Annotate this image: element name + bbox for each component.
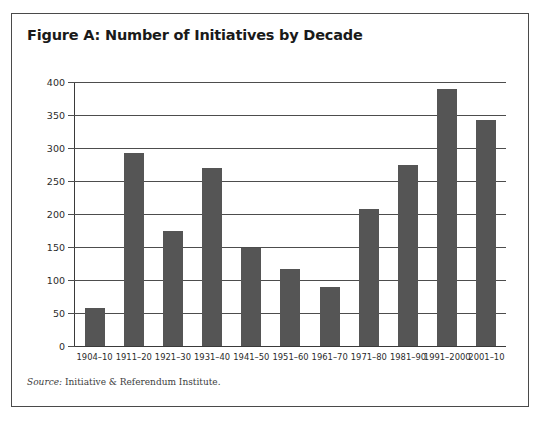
x-axis-label: 1961–70 [312,352,348,362]
y-axis-label-100: 100 [47,275,65,286]
x-axis-label: 1971–80 [351,352,387,362]
gridline-0 [74,346,506,347]
bar [241,248,261,346]
y-axis-label-0: 0 [59,341,65,352]
y-tick-50 [68,313,75,314]
y-tick-350 [68,115,75,116]
x-axis-label: 1951–60 [272,352,308,362]
bar [398,165,418,347]
figure-title: Figure A: Number of Initiatives by Decad… [27,27,363,43]
bar-slot [271,82,310,346]
y-axis-label-350: 350 [47,110,65,121]
y-axis-label-50: 50 [53,308,65,319]
y-tick-300 [68,148,75,149]
x-axis-label: 1991–2000 [424,352,471,362]
bar-slot [467,82,506,346]
x-axis-label: 1941–50 [233,352,269,362]
bar-slot [153,82,192,346]
y-axis-label-250: 250 [47,176,65,187]
bar [202,168,222,346]
bar-slot [310,82,349,346]
y-axis-label-400: 400 [47,77,65,88]
source-note: Source: Initiative & Referendum Institut… [27,377,221,387]
y-axis-label-200: 200 [47,209,65,220]
x-axis-label: 2001–10 [468,352,504,362]
y-axis-label-150: 150 [47,242,65,253]
bar [124,153,144,346]
bar [437,89,457,346]
x-axis-label: 1911–20 [116,352,152,362]
bar [280,269,300,346]
y-tick-100 [68,280,75,281]
bar [163,231,183,347]
bar-slot [75,82,114,346]
source-text: Initiative & Referendum Institute. [65,377,221,387]
bar-slot [388,82,427,346]
chart-plot-area: 050100150200250300350400 [74,82,506,346]
bar-slot [349,82,388,346]
y-tick-400 [68,82,75,83]
bar-slot [232,82,271,346]
bar-slot [428,82,467,346]
y-tick-200 [68,214,75,215]
y-axis-label-300: 300 [47,143,65,154]
x-axis-label: 1981–90 [390,352,426,362]
bar-series [75,82,506,346]
bar-slot [114,82,153,346]
y-tick-250 [68,181,75,182]
y-tick-150 [68,247,75,248]
bar [320,287,340,346]
x-axis-label: 1921–30 [155,352,191,362]
x-axis-labels: 1904–101911–201921–301931–401941–501951–… [75,352,506,368]
source-label: Source: [27,377,62,387]
x-axis-label: 1931–40 [194,352,230,362]
x-axis-label: 1904–10 [76,352,112,362]
bar-slot [193,82,232,346]
y-tick-0 [68,346,75,347]
bar [476,120,496,346]
bar [85,308,105,346]
bar [359,209,379,346]
figure-panel: Figure A: Number of Initiatives by Decad… [11,13,529,407]
